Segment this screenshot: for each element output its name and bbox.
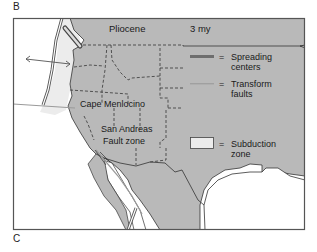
svg-text:=: = (219, 52, 224, 62)
legend-label-zone: zone (231, 149, 251, 159)
transform-fault-swatch (190, 83, 214, 84)
panel-label-c: C (13, 233, 20, 244)
legend-label-centers: centers (231, 62, 261, 72)
legend-label-transform: Transform (231, 79, 272, 89)
tectonic-map: Pliocene 3 my Cape Menlocino San Andreas… (0, 0, 317, 252)
age-label: 3 my (190, 23, 211, 34)
epoch-label: Pliocene (109, 23, 145, 34)
san-andreas-label-line1: San Andreas (101, 124, 153, 134)
legend-label-spreading: Spreading (231, 52, 272, 62)
legend-label-faults: faults (231, 89, 253, 99)
san-andreas-label-line2: Fault zone (103, 136, 145, 146)
legend-label-subduction: Subduction (231, 139, 276, 149)
svg-text:=: = (219, 139, 224, 149)
subduction-zone-swatch (191, 138, 214, 149)
spreading-center-swatch (190, 55, 214, 58)
cape-mendocino-label: Cape Menlocino (80, 99, 145, 109)
svg-text:=: = (219, 79, 224, 89)
